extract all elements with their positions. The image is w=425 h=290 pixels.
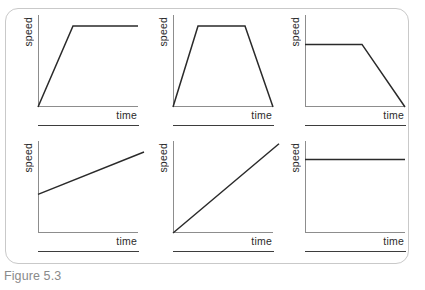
panel-rule-1 [38, 125, 139, 126]
speed-time-curve-2 [173, 15, 273, 107]
speed-time-curve-1 [38, 15, 138, 107]
speed-time-curve-5 [173, 141, 273, 233]
y-axis-label-5: speed [157, 143, 169, 173]
graph-panel-5: speed time [151, 139, 275, 259]
speed-time-curve-3 [305, 15, 405, 107]
figure-caption: Figure 5.3 [4, 269, 61, 283]
y-axis-label-1: speed [22, 17, 34, 47]
graph-panel-4: speed time [16, 139, 140, 259]
curve-path-2 [173, 26, 273, 107]
panel-rule-5 [173, 251, 274, 252]
figure-root: speed time speed time [0, 0, 425, 290]
plot-area-5: speed time [173, 141, 273, 233]
graph-grid: speed time speed time [6, 9, 410, 265]
graph-panel-1: speed time [16, 13, 140, 133]
y-axis-label-2: speed [157, 17, 169, 47]
figure-panel-box: speed time speed time [5, 8, 409, 264]
x-axis-label-2: time [251, 109, 272, 121]
x-axis-label-3: time [383, 109, 404, 121]
panel-rule-6 [305, 251, 406, 252]
y-axis-label-6: speed [289, 143, 301, 173]
speed-time-curve-4 [38, 141, 138, 233]
graph-panel-3: speed time [283, 13, 407, 133]
x-axis-label-6: time [383, 235, 404, 247]
x-axis-label-4: time [116, 235, 137, 247]
graph-panel-2: speed time [151, 13, 275, 133]
curve-path-4 [38, 152, 144, 194]
plot-area-3: speed time [305, 15, 405, 107]
curve-path-3 [305, 44, 405, 107]
curve-path-5 [173, 144, 279, 233]
y-axis-label-4: speed [22, 143, 34, 173]
panel-rule-4 [38, 251, 139, 252]
panel-rule-3 [305, 125, 406, 126]
panel-rule-2 [173, 125, 274, 126]
plot-area-6: speed time [305, 141, 405, 233]
x-axis-label-5: time [251, 235, 272, 247]
graph-panel-6: speed time [283, 139, 407, 259]
y-axis-label-3: speed [289, 17, 301, 47]
x-axis-label-1: time [116, 109, 137, 121]
plot-area-4: speed time [38, 141, 138, 233]
plot-area-2: speed time [173, 15, 273, 107]
curve-path-1 [38, 26, 138, 107]
speed-time-curve-6 [305, 141, 405, 233]
plot-area-1: speed time [38, 15, 138, 107]
